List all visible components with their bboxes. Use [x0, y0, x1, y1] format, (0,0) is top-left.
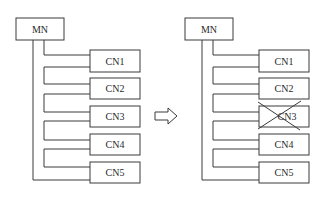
child-node-label: CN2: [106, 83, 125, 94]
child-node-label: CN4: [106, 139, 125, 150]
right-arrow-icon: [155, 108, 177, 124]
outer-bus-line: [202, 40, 259, 180]
child-node-label: CN3: [106, 111, 125, 122]
outer-bus-line: [33, 40, 90, 180]
after-topology: MN CN1 CN2 CN3 CN4 CN5: [185, 18, 309, 183]
link-mn-cn1: [213, 40, 259, 55]
link-cn4-cn5: [213, 149, 259, 167]
link-cn3-cn4: [44, 121, 90, 140]
link-cn1-cn2: [44, 67, 90, 84]
link-cn3-cn4: [213, 121, 259, 140]
link-mn-cn1: [44, 40, 90, 55]
child-node-label: CN1: [275, 56, 294, 67]
diagram-canvas: MN CN1 CN2 CN3 CN4 CN5 MN CN1 CN: [0, 0, 324, 197]
child-node-label: CN2: [275, 83, 294, 94]
master-node-label: MN: [201, 24, 217, 35]
link-cn2-cn3: [213, 94, 259, 112]
master-node-label: MN: [32, 24, 48, 35]
link-cn1-cn2: [213, 67, 259, 84]
link-cn2-cn3: [44, 94, 90, 112]
before-topology: MN CN1 CN2 CN3 CN4 CN5: [16, 18, 140, 183]
child-node-label: CN1: [106, 56, 125, 67]
child-node-label: CN5: [106, 167, 125, 178]
link-cn4-cn5: [44, 149, 90, 167]
child-node-label: CN5: [275, 167, 294, 178]
child-node-label: CN4: [275, 139, 294, 150]
